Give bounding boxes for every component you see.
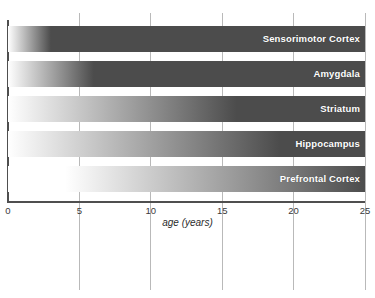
x-tick-label-20: 20 (288, 205, 299, 216)
x-axis-line (7, 201, 365, 203)
bar-row: Sensorimotor Cortex (8, 26, 365, 52)
bar-gradient[interactable] (8, 96, 365, 122)
bar-gradient[interactable] (8, 61, 365, 87)
bar-label: Hippocampus (296, 139, 360, 149)
bar-label: Sensorimotor Cortex (263, 34, 360, 44)
bar-row: Hippocampus (8, 131, 365, 157)
bar-row: Amygdala (8, 61, 365, 87)
x-tick-label-15: 15 (217, 205, 228, 216)
bar-row: Striatum (8, 96, 365, 122)
bar-chart: Sensorimotor CortexAmygdalaStriatumHippo… (0, 0, 375, 298)
x-tick-label-10: 10 (146, 205, 157, 216)
bar-label: Amygdala (313, 69, 360, 79)
bar-row: Prefrontal Cortex (8, 166, 365, 192)
bar-label: Striatum (320, 104, 360, 114)
x-tick-label-25: 25 (360, 205, 371, 216)
plot-area: Sensorimotor CortexAmygdalaStriatumHippo… (8, 20, 365, 201)
x-tick-label-5: 5 (77, 205, 82, 216)
x-axis-title: age (years) (0, 217, 375, 228)
bar-label: Prefrontal Cortex (280, 174, 360, 184)
x-tick-label-0: 0 (5, 205, 10, 216)
